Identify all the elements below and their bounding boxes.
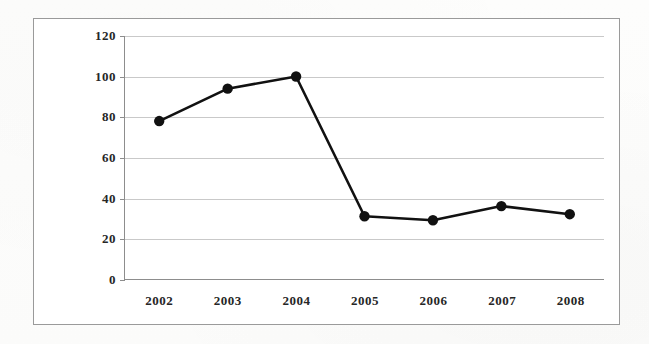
x-axis-tick-label: 2008: [557, 293, 585, 309]
x-axis-tick-label: 2003: [214, 293, 242, 309]
y-axis-tick: [120, 199, 125, 200]
y-axis-tick: [120, 239, 125, 240]
y-axis-tick-label: 100: [95, 69, 116, 85]
data-point-marker: [222, 83, 232, 93]
gridline: [125, 239, 604, 240]
data-point-marker: [428, 215, 438, 225]
data-point-marker: [359, 211, 369, 221]
x-axis-tick-label: 2007: [488, 293, 516, 309]
x-axis-tick-label: 2005: [351, 293, 379, 309]
x-axis-tick-label: 2004: [282, 293, 310, 309]
y-axis-tick-label: 120: [95, 28, 116, 44]
data-point-marker: [565, 209, 575, 219]
gridline: [125, 117, 604, 118]
series-markers: [154, 71, 575, 225]
y-axis-tick: [120, 77, 125, 78]
gridline: [125, 199, 604, 200]
y-axis-tick: [120, 280, 125, 281]
y-axis-tick: [120, 117, 125, 118]
data-point-marker: [496, 201, 506, 211]
y-axis-tick-label: 0: [109, 272, 116, 288]
y-axis-tick-label: 80: [102, 109, 116, 125]
y-axis-tick-label: 20: [102, 231, 116, 247]
chart-screenshot: Number of papers 020406080100120 2002200…: [0, 0, 649, 344]
y-axis-tick-label: 60: [102, 150, 116, 166]
gridline: [125, 36, 604, 37]
gridline: [125, 158, 604, 159]
chart-frame: Number of papers 020406080100120 2002200…: [33, 18, 620, 325]
x-axis-tick-label: 2002: [145, 293, 173, 309]
x-axis-tick-label: 2006: [420, 293, 448, 309]
plot-area: 020406080100120 200220032004200520062007…: [124, 36, 604, 280]
y-axis-tick: [120, 158, 125, 159]
y-axis-tick: [120, 36, 125, 37]
gridline: [125, 77, 604, 78]
y-axis-tick-label: 40: [102, 191, 116, 207]
